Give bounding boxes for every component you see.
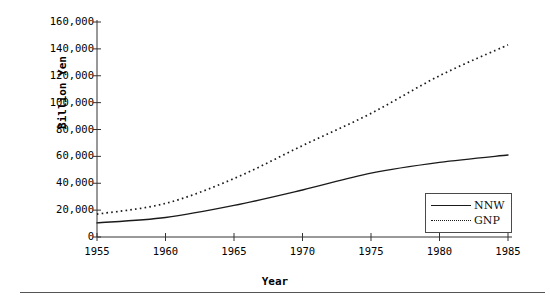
legend-item-nnw: NNW	[431, 198, 505, 213]
legend-label: NNW	[474, 199, 505, 212]
footer-divider	[20, 292, 545, 293]
legend-item-gnp: GNP	[431, 213, 505, 228]
plot-area	[0, 0, 550, 302]
series-line-gnp	[97, 45, 508, 214]
legend-line-solid-icon	[431, 201, 471, 211]
chart-page: Billion Yen 020,00040,00060,00080,000100…	[0, 0, 550, 302]
x-axis-title: Year	[0, 275, 550, 288]
chart-legend: NNW GNP	[425, 193, 512, 233]
legend-line-dotted-icon	[431, 216, 471, 226]
legend-label: GNP	[474, 214, 500, 227]
